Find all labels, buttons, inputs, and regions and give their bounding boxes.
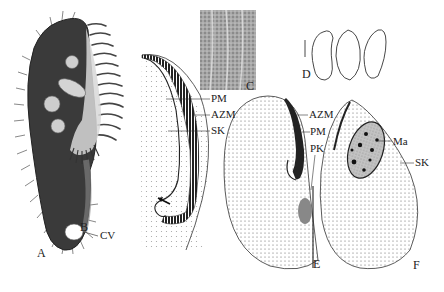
panel-f-dorsal bbox=[320, 100, 417, 269]
figure-canvas bbox=[0, 0, 444, 292]
label-b-adoral-zone: AZM bbox=[211, 109, 235, 120]
label-e-paroral-kinety: PK bbox=[310, 143, 324, 154]
panel-label-c: C bbox=[246, 80, 254, 92]
label-f-macronucleus: Ma bbox=[393, 136, 408, 147]
panel-label-e: E bbox=[313, 258, 320, 270]
panel-a-cell bbox=[14, 11, 123, 254]
label-b-paroral-membrane: PM bbox=[211, 93, 227, 104]
label-e-paroral-membrane: PM bbox=[310, 126, 326, 137]
panel-label-f: F bbox=[413, 259, 420, 271]
label-b-somatic-kineties: SK bbox=[211, 125, 225, 136]
label-e-adoral-zone: AZM bbox=[309, 109, 333, 120]
panel-label-a: A bbox=[37, 247, 46, 259]
panel-label-b: B bbox=[80, 221, 88, 233]
panel-label-d: D bbox=[302, 68, 311, 80]
panel-c-inset bbox=[200, 10, 256, 90]
label-contractile-vacuole: CV bbox=[100, 230, 115, 241]
label-f-somatic-kineties: SK bbox=[415, 157, 429, 168]
panel-d-shapes bbox=[305, 30, 386, 80]
panel-b-oral-apparatus bbox=[141, 55, 210, 251]
panel-e-ventral bbox=[224, 96, 318, 269]
